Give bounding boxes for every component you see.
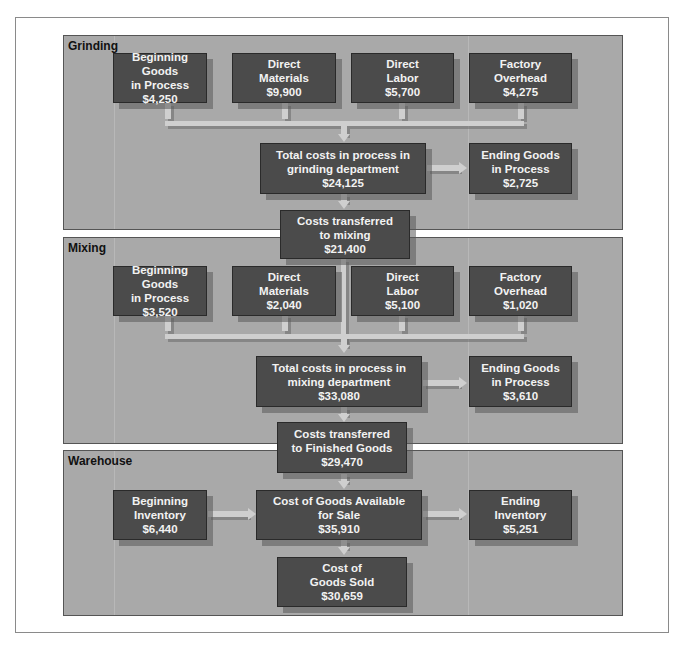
- connector: [423, 380, 459, 386]
- connector: [518, 103, 524, 119]
- mixing-title: Mixing: [68, 241, 106, 255]
- arrow-down-icon: [338, 547, 350, 555]
- transfer-to-mixing-box: Costs transferredto mixing$21,400: [280, 210, 410, 259]
- mixing-direct-materials-box: DirectMaterials$2,040: [232, 266, 336, 316]
- mixing-total-costs-box: Total costs in process inmixing departme…: [256, 356, 422, 407]
- grinding-direct-labor-box: DirectLabor$5,700: [351, 53, 454, 103]
- transfer-line: [341, 259, 346, 341]
- connector: [282, 315, 288, 331]
- arrow-down-icon: [338, 481, 350, 489]
- connector: [282, 103, 288, 119]
- arrow-right-icon: [459, 162, 467, 174]
- grinding-factory-overhead-box: FactoryOverhead$4,275: [469, 53, 572, 103]
- grinding-direct-materials-box: DirectMaterials$9,900: [232, 53, 336, 103]
- mixing-factory-overhead-box: FactoryOverhead$1,020: [469, 266, 572, 316]
- warehouse-title: Warehouse: [68, 454, 132, 468]
- grinding-title: Grinding: [68, 39, 118, 53]
- grinding-ending-goods-box: Ending Goodsin Process$2,725: [469, 143, 572, 194]
- arrow-right-icon: [248, 508, 256, 520]
- grinding-total-costs-box: Total costs in process ingrinding depart…: [260, 143, 426, 194]
- arrow-down-icon: [338, 134, 350, 142]
- connector: [427, 165, 459, 171]
- arrow-down-icon: [338, 201, 350, 209]
- arrow-right-icon: [459, 377, 467, 389]
- cost-of-goods-available-box: Cost of Goods Availablefor Sale$35,910: [256, 490, 422, 540]
- cost-of-goods-sold-box: Cost ofGoods Sold$30,659: [277, 557, 407, 607]
- mixing-beginning-goods-box: Beginning Goodsin Process$3,520: [113, 266, 207, 316]
- connector: [399, 315, 405, 331]
- mixing-ending-goods-box: Ending Goodsin Process$3,610: [469, 356, 572, 407]
- arrow-down-icon: [338, 414, 350, 422]
- connector: [399, 103, 405, 119]
- connector: [518, 315, 524, 331]
- arrow-right-icon: [459, 508, 467, 520]
- transfer-to-finished-goods-box: Costs transferredto Finished Goods$29,47…: [277, 422, 407, 473]
- connector: [208, 511, 248, 517]
- connector: [423, 511, 459, 517]
- arrow-down-icon: [338, 345, 350, 353]
- ending-inventory-box: EndingInventory$5,251: [469, 490, 572, 540]
- grinding-beginning-goods-box: Beginning Goodsin Process$4,250: [113, 53, 207, 103]
- mixing-direct-labor-box: DirectLabor$5,100: [351, 266, 454, 316]
- beginning-inventory-box: BeginningInventory$6,440: [113, 490, 207, 540]
